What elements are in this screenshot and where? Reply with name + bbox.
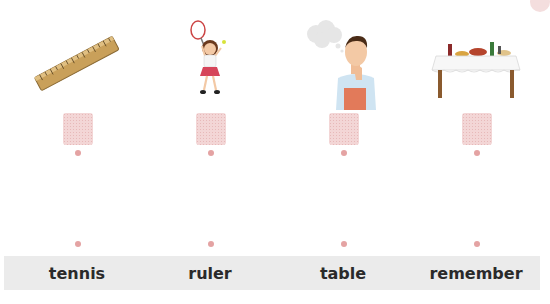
table-icon	[421, 18, 531, 110]
connector-dot-top[interactable]	[474, 150, 480, 156]
word-option[interactable]: table	[273, 256, 413, 290]
connector-dot-bottom[interactable]	[474, 241, 480, 247]
connector-dot-bottom[interactable]	[75, 241, 81, 247]
connector-dot-top[interactable]	[75, 150, 81, 156]
drop-target[interactable]	[63, 113, 93, 145]
drop-target[interactable]	[329, 113, 359, 145]
connector-dot-bottom[interactable]	[208, 241, 214, 247]
drop-target[interactable]	[196, 113, 226, 145]
corner-badge	[530, 0, 550, 12]
word-option[interactable]: ruler	[140, 256, 280, 290]
tennis-player-icon	[155, 18, 265, 110]
connector-dot-bottom[interactable]	[341, 241, 347, 247]
word-option[interactable]: remember	[406, 256, 546, 290]
connector-dot-top[interactable]	[341, 150, 347, 156]
word-option[interactable]: tennis	[7, 256, 147, 290]
ruler-icon	[22, 18, 132, 110]
connector-dot-top[interactable]	[208, 150, 214, 156]
thinking-man-icon	[288, 18, 398, 110]
drop-target[interactable]	[462, 113, 492, 145]
